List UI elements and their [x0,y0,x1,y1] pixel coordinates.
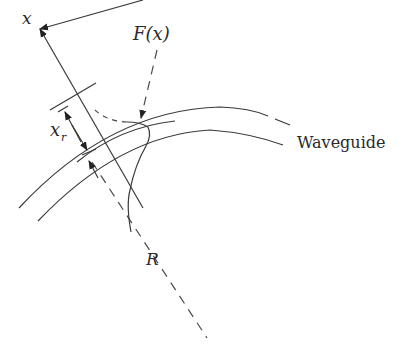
field-label: F(x) [132,23,170,44]
xr-label: x [50,119,60,140]
waveguide-label: Waveguide [297,133,385,152]
field-profile-curve [127,122,150,232]
waveguide-bend-diagram: x F(x) x r Waveguide R [0,0,415,358]
x-axis-line [40,0,143,29]
xr-top-tick [58,106,68,112]
xr-dimension-arrow-down [72,125,87,150]
field-pointer-arrow [141,50,157,118]
waveguide-center-line [77,121,175,162]
waveguide-outer-wall-tail [275,119,290,125]
xr-subscript: r [61,131,67,144]
x-axis-label: x [22,8,32,28]
field-profile-tail [93,108,127,122]
waveguide-inner-wall [38,130,283,221]
radius-label: R [145,249,159,269]
